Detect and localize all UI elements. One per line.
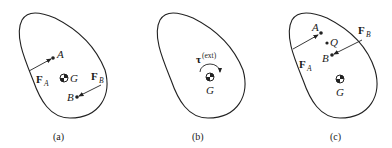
force-vector-c-fb bbox=[334, 40, 362, 54]
label-point-g: G bbox=[206, 84, 214, 96]
label-point-b: B bbox=[322, 52, 329, 64]
label-force-fa-subscript: A bbox=[306, 64, 312, 73]
label-point-a: A bbox=[56, 48, 64, 60]
rigid-body-diagram: A F A G F B B (a) τ (ext) G (b) bbox=[0, 0, 392, 148]
torque-arrow-icon bbox=[200, 64, 220, 72]
caption-b: (b) bbox=[192, 131, 204, 143]
label-force-fb-subscript: B bbox=[366, 30, 371, 39]
label-point-a: A bbox=[311, 21, 319, 33]
point-b-dot bbox=[75, 95, 79, 99]
center-of-mass-icon bbox=[206, 73, 214, 81]
rigid-body-outline-a bbox=[19, 13, 107, 118]
force-vector-c-fa bbox=[293, 35, 318, 49]
panel-c: A Q F A F B B G (c) bbox=[289, 13, 377, 143]
force-vector-a-fa bbox=[29, 59, 51, 71]
center-of-mass-icon bbox=[336, 75, 344, 83]
center-of-mass-icon bbox=[60, 74, 68, 82]
point-b-dot bbox=[330, 53, 334, 57]
caption-a: (a) bbox=[53, 131, 64, 143]
label-force-fa: F bbox=[299, 58, 306, 70]
point-a-dot bbox=[319, 31, 323, 35]
label-force-fb: F bbox=[358, 24, 365, 36]
label-torque-superscript: (ext) bbox=[202, 51, 217, 60]
label-point-b: B bbox=[67, 91, 74, 103]
force-vector-a-fb bbox=[79, 85, 101, 96]
label-force-fb-subscript: B bbox=[99, 76, 104, 85]
label-point-g: G bbox=[336, 86, 344, 98]
point-a-dot bbox=[51, 56, 55, 60]
label-point-g: G bbox=[70, 72, 78, 84]
label-force-fa: F bbox=[36, 73, 43, 85]
label-torque: τ bbox=[196, 53, 201, 65]
label-force-fa-subscript: A bbox=[43, 79, 49, 88]
panel-a: A F A G F B B (a) bbox=[19, 13, 107, 143]
label-force-fb: F bbox=[91, 70, 98, 82]
rigid-body-outline-b bbox=[157, 13, 245, 118]
caption-c: (c) bbox=[330, 131, 341, 143]
point-q-dot bbox=[325, 41, 328, 44]
panel-b: τ (ext) G (b) bbox=[157, 13, 245, 143]
label-point-q: Q bbox=[330, 36, 338, 48]
